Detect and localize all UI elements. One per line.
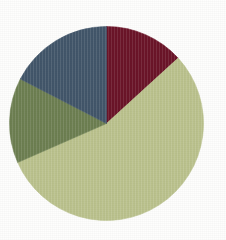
pie-slice-group [9, 26, 203, 220]
pie-chart-figure [0, 0, 226, 240]
pie-chart-svg [0, 0, 226, 240]
